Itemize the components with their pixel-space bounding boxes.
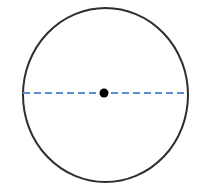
- circle-diagram-svg: [0, 0, 206, 193]
- circle-diagram-canvas: [0, 0, 206, 193]
- center-point-dot-icon: [100, 89, 109, 98]
